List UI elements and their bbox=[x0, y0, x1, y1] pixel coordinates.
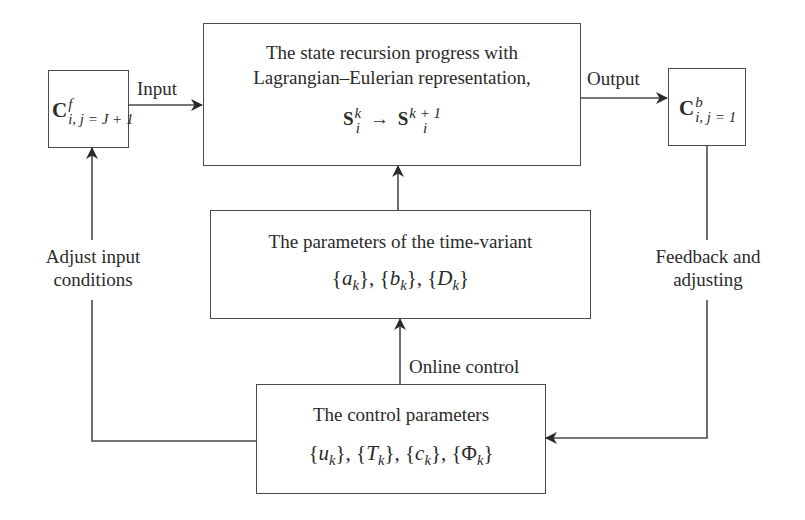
input-node-superscript: f bbox=[68, 97, 133, 112]
output-node-subscript: i, j = 1 bbox=[695, 110, 736, 125]
input-label: Input bbox=[137, 78, 177, 101]
online-control-label: Online control bbox=[409, 356, 519, 379]
param-d-sub: k bbox=[453, 277, 460, 293]
output-node: Cbi, j = 1 bbox=[668, 68, 746, 146]
control-params-title: The control parameters bbox=[257, 404, 545, 427]
time-variant-param-list: {ak}, {bk}, {Dk} bbox=[211, 266, 590, 295]
state-recursion-formula: Ski → Sk + 1i bbox=[204, 106, 580, 136]
param-a-sub: k bbox=[352, 277, 359, 293]
param-t-sub: k bbox=[378, 452, 385, 468]
output-label: Output bbox=[587, 68, 640, 91]
formula-lhs-sub: i bbox=[355, 121, 362, 136]
state-recursion-line1: The state recursion progress with bbox=[204, 42, 580, 65]
formula-rhs-sub: i bbox=[409, 121, 441, 136]
input-node: Cfi, j = J + 1 bbox=[48, 70, 129, 148]
state-recursion-box: The state recursion progress with Lagran… bbox=[203, 23, 581, 166]
formula-lhs-sup: k bbox=[355, 106, 362, 121]
formula-rhs: S bbox=[398, 108, 409, 129]
control-param-list: {uk}, {Tk}, {ck}, {Φk} bbox=[257, 441, 545, 470]
param-phi-sub: k bbox=[477, 452, 484, 468]
param-u-sub: k bbox=[329, 452, 336, 468]
adjust-input-label: Adjust input conditions bbox=[18, 246, 168, 292]
param-u: u bbox=[318, 441, 329, 465]
feedback-line1: Feedback and bbox=[648, 246, 768, 269]
adjust-input-line1: Adjust input bbox=[18, 246, 168, 269]
feedback-label: Feedback and adjusting bbox=[648, 246, 768, 292]
param-phi: Φ bbox=[462, 441, 477, 465]
param-c: c bbox=[415, 441, 424, 465]
formula-lhs: S bbox=[343, 108, 354, 129]
control-params-box: The control parameters {uk}, {Tk}, {ck},… bbox=[256, 384, 546, 494]
param-d: D bbox=[437, 266, 452, 290]
output-node-letter: C bbox=[679, 96, 694, 120]
param-b-sub: k bbox=[400, 277, 407, 293]
time-variant-params-box: The parameters of the time-variant {ak},… bbox=[210, 210, 591, 319]
output-node-symbol: Cbi, j = 1 bbox=[679, 95, 736, 125]
param-a: a bbox=[342, 266, 353, 290]
state-recursion-line2: Lagrangian–Eulerian representation, bbox=[204, 67, 580, 90]
input-node-symbol: Cfi, j = J + 1 bbox=[52, 97, 133, 127]
formula-arrow: → bbox=[370, 108, 389, 129]
param-t: T bbox=[366, 441, 378, 465]
output-node-superscript: b bbox=[695, 95, 736, 110]
formula-rhs-sup: k + 1 bbox=[409, 106, 441, 121]
adjust-input-line2: conditions bbox=[18, 269, 168, 292]
param-c-sub: k bbox=[424, 452, 431, 468]
input-node-letter: C bbox=[52, 98, 67, 122]
param-b: b bbox=[390, 266, 401, 290]
feedback-line2: adjusting bbox=[648, 269, 768, 292]
input-node-subscript: i, j = J + 1 bbox=[68, 112, 133, 127]
time-variant-title: The parameters of the time-variant bbox=[211, 231, 590, 254]
